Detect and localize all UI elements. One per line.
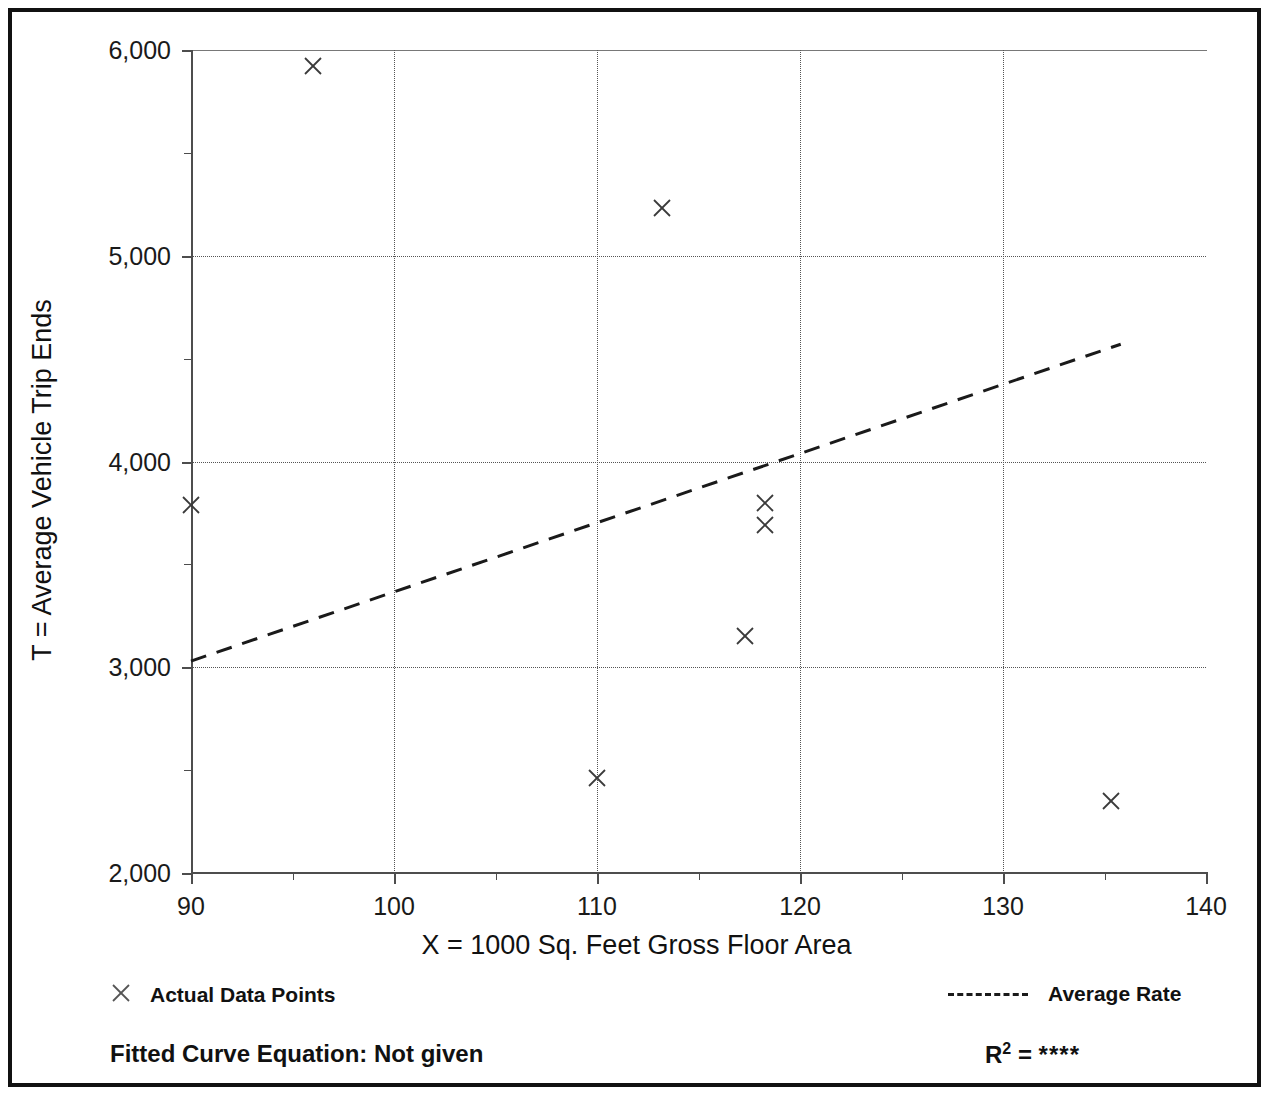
data-point-marker [180, 494, 202, 516]
x-tick-major [1206, 872, 1208, 884]
y-tick-minor [184, 564, 191, 565]
x-tick-minor [902, 872, 903, 880]
x-tick-label: 90 [177, 892, 205, 921]
y-axis-title: T = Average Vehicle Trip Ends [27, 299, 58, 660]
x-tick-label: 130 [982, 892, 1024, 921]
y-tick-minor [184, 359, 191, 360]
y-tick-label: 6,000 [108, 36, 171, 65]
data-point-marker [586, 767, 608, 789]
data-point-marker [754, 492, 776, 514]
y-tick-label: 4,000 [108, 447, 171, 476]
data-point-marker [1100, 790, 1122, 812]
data-point-marker [302, 55, 324, 77]
legend-item-actual-data-points: Actual Data Points [110, 982, 336, 1008]
dashed-line-icon [948, 993, 1028, 996]
x-tick-minor [496, 872, 497, 880]
chart-figure: 6,0005,0004,0003,0002,000 90100110120130… [0, 0, 1273, 1099]
r-squared-value: R2 = **** [985, 1040, 1080, 1069]
plot-area: 6,0005,0004,0003,0002,000 90100110120130… [191, 50, 1206, 873]
x-axis-title: X = 1000 Sq. Feet Gross Floor Area [0, 930, 1273, 961]
y-tick-label: 3,000 [108, 653, 171, 682]
r-equals: = [1011, 1041, 1038, 1068]
legend-row-symbols: Actual Data Points Average Rate [0, 982, 1273, 1016]
y-tick-major [182, 667, 192, 669]
gridline-horizontal [191, 256, 1206, 257]
legend-label-average-rate: Average Rate [1048, 982, 1181, 1006]
r-symbol: R [985, 1041, 1002, 1068]
x-tick-label: 110 [577, 892, 617, 921]
r-exponent: 2 [1002, 1040, 1011, 1057]
gridline-horizontal [191, 462, 1206, 463]
y-tick-major [182, 256, 192, 258]
y-tick-minor [184, 153, 191, 154]
y-tick-major [182, 50, 192, 52]
x-tick-label: 140 [1185, 892, 1227, 921]
y-tick-label: 2,000 [108, 859, 171, 888]
gridline-vertical [1003, 50, 1004, 873]
data-point-marker [754, 514, 776, 536]
x-tick-major [800, 872, 802, 884]
x-tick-major [191, 872, 193, 884]
gridline-horizontal [191, 667, 1206, 668]
x-tick-label: 100 [373, 892, 415, 921]
legend-row-equations: Fitted Curve Equation: Not given R2 = **… [0, 1040, 1273, 1078]
x-tick-label: 120 [779, 892, 821, 921]
data-point-marker [734, 625, 756, 647]
x-tick-major [394, 872, 396, 884]
x-tick-major [1003, 872, 1005, 884]
legend-label-actual-data-points: Actual Data Points [150, 983, 336, 1007]
legend-item-average-rate: Average Rate [948, 982, 1181, 1006]
x-tick-minor [699, 872, 700, 880]
gridline-vertical [800, 50, 801, 873]
y-tick-minor [184, 770, 191, 771]
x-tick-minor [293, 872, 294, 880]
data-point-marker [651, 197, 673, 219]
y-tick-label: 5,000 [108, 241, 171, 270]
y-tick-major [182, 462, 192, 464]
x-marker-icon [110, 982, 132, 1008]
x-tick-minor [1105, 872, 1106, 880]
x-tick-major [597, 872, 599, 884]
r-value-stars: **** [1039, 1041, 1080, 1068]
gridline-vertical [394, 50, 395, 873]
fitted-curve-equation: Fitted Curve Equation: Not given [110, 1040, 483, 1068]
gridline-vertical [597, 50, 598, 873]
plot-top-border [191, 50, 1207, 51]
